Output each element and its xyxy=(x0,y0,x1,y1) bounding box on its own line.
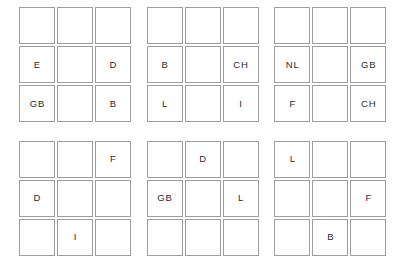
grid-cell-empty[interactable] xyxy=(274,7,310,44)
grid-cell-empty[interactable] xyxy=(95,219,131,256)
grid-cell-empty[interactable] xyxy=(57,85,93,122)
grid-cell[interactable]: L xyxy=(274,141,310,178)
grid-cell[interactable]: B xyxy=(95,85,131,122)
grid-cell-empty[interactable] xyxy=(312,7,348,44)
grid-cell-empty[interactable] xyxy=(312,180,348,217)
grid-cell[interactable]: F xyxy=(95,141,131,178)
grid-cell[interactable]: D xyxy=(19,180,55,217)
grid-cell-empty[interactable] xyxy=(19,219,55,256)
grid-cell-empty[interactable] xyxy=(185,85,221,122)
grid-cell-empty[interactable] xyxy=(312,46,348,83)
grid-block-3: NLGBFCH xyxy=(274,7,396,131)
grid-block-4: FDI xyxy=(19,141,141,265)
grid-cell-empty[interactable] xyxy=(274,180,310,217)
grid-cell-empty[interactable] xyxy=(312,141,348,178)
grid-cell[interactable]: GB xyxy=(147,180,183,217)
grid-cell[interactable]: F xyxy=(350,180,386,217)
grid-collection: EDGBBBCHLINLGBFCHFDIDGBLLFB xyxy=(0,0,401,271)
grid-cell[interactable]: NL xyxy=(274,46,310,83)
grid-cell[interactable]: E xyxy=(19,46,55,83)
grid-cell-empty[interactable] xyxy=(147,219,183,256)
grid-cell-empty[interactable] xyxy=(223,219,259,256)
grid-cell-empty[interactable] xyxy=(57,46,93,83)
grid-cell-empty[interactable] xyxy=(147,141,183,178)
grid-block-5: DGBL xyxy=(147,141,269,265)
grid-cell[interactable]: I xyxy=(57,219,93,256)
grid-cell[interactable]: B xyxy=(312,219,348,256)
grid-cell-empty[interactable] xyxy=(223,7,259,44)
grid-cell[interactable]: L xyxy=(223,180,259,217)
grid-cell[interactable]: D xyxy=(95,46,131,83)
grid-cell-empty[interactable] xyxy=(57,180,93,217)
grid-cell[interactable]: F xyxy=(274,85,310,122)
grid-cell-empty[interactable] xyxy=(274,219,310,256)
grid-cell-empty[interactable] xyxy=(185,7,221,44)
grid-cell-empty[interactable] xyxy=(350,141,386,178)
grid-cell-empty[interactable] xyxy=(185,46,221,83)
grid-cell-empty[interactable] xyxy=(95,7,131,44)
grid-cell-empty[interactable] xyxy=(223,141,259,178)
grid-cell[interactable]: D xyxy=(185,141,221,178)
grid-block-6: LFB xyxy=(274,141,396,265)
grid-cell[interactable]: I xyxy=(223,85,259,122)
grid-cell-empty[interactable] xyxy=(147,7,183,44)
grid-cell[interactable]: GB xyxy=(19,85,55,122)
grid-cell-empty[interactable] xyxy=(350,7,386,44)
grid-block-2: BCHLI xyxy=(147,7,269,131)
grid-cell[interactable]: L xyxy=(147,85,183,122)
grid-cell-empty[interactable] xyxy=(57,141,93,178)
grid-cell[interactable]: CH xyxy=(223,46,259,83)
grid-cell-empty[interactable] xyxy=(350,219,386,256)
grid-block-1: EDGBB xyxy=(19,7,141,131)
grid-cell-empty[interactable] xyxy=(19,141,55,178)
grid-cell-empty[interactable] xyxy=(185,180,221,217)
grid-cell-empty[interactable] xyxy=(19,7,55,44)
grid-cell-empty[interactable] xyxy=(185,219,221,256)
grid-cell-empty[interactable] xyxy=(312,85,348,122)
grid-cell-empty[interactable] xyxy=(57,7,93,44)
grid-cell[interactable]: B xyxy=(147,46,183,83)
grid-cell[interactable]: GB xyxy=(350,46,386,83)
grid-cell-empty[interactable] xyxy=(95,180,131,217)
grid-cell[interactable]: CH xyxy=(350,85,386,122)
